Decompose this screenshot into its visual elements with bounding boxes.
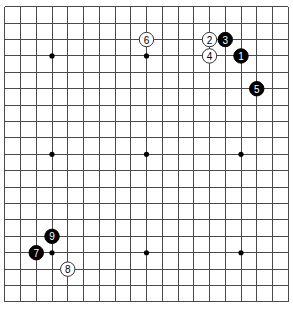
star-point-icon [49, 250, 54, 255]
stone-white-move-6[interactable]: 6 [139, 32, 153, 46]
move-number-label: 4 [207, 51, 213, 62]
star-point-icon [144, 152, 149, 157]
stone-white-move-8[interactable]: 8 [61, 262, 75, 276]
move-number-label: 9 [49, 231, 55, 242]
stone-black-move-3[interactable]: 3 [218, 32, 232, 46]
stone-black-move-1[interactable]: 1 [234, 49, 248, 63]
star-point-icon [144, 250, 149, 255]
star-point-icon [238, 152, 243, 157]
stone-black-move-9[interactable]: 9 [45, 229, 59, 243]
star-point-icon [49, 53, 54, 58]
stone-white-move-2[interactable]: 2 [202, 32, 216, 46]
move-number-label: 8 [65, 264, 71, 275]
stone-black-move-7[interactable]: 7 [29, 246, 43, 260]
go-board[interactable]: 123456789 [0, 0, 293, 311]
move-number-label: 1 [238, 51, 244, 62]
move-number-label: 7 [33, 248, 39, 259]
move-number-label: 6 [144, 35, 150, 46]
star-point-icon [238, 250, 243, 255]
stone-black-move-5[interactable]: 5 [250, 82, 264, 96]
star-point-icon [49, 152, 54, 157]
move-number-label: 5 [254, 84, 260, 95]
star-point-icon [144, 53, 149, 58]
go-board-canvas[interactable]: 123456789 [0, 0, 293, 311]
stone-white-move-4[interactable]: 4 [202, 49, 216, 63]
move-number-label: 3 [222, 35, 228, 46]
move-number-label: 2 [207, 35, 213, 46]
